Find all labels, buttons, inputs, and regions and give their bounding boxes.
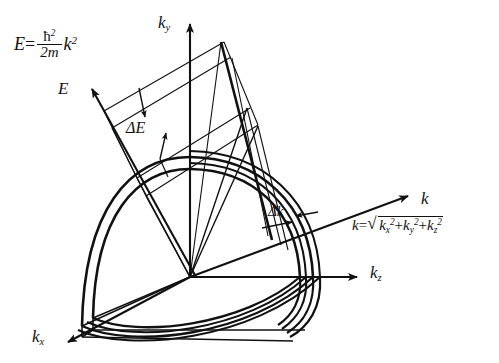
k-magnitude-equation: k= kx2+ky2+kz2 bbox=[352, 216, 443, 235]
annotation-delta-E: ΔE bbox=[126, 120, 145, 136]
axis-label-kz: kz bbox=[370, 264, 382, 283]
formula-equals: = bbox=[25, 34, 35, 54]
axis-label-k: k bbox=[421, 190, 429, 207]
formula-lhs: E bbox=[14, 34, 25, 54]
annotation-delta-k: Δk bbox=[268, 204, 283, 219]
wedge-edges-from-origin bbox=[137, 108, 258, 277]
energy-formula: E= ħ2 2m k2 bbox=[14, 30, 77, 61]
axis-label-ky: ky bbox=[158, 14, 170, 33]
formula-fraction: ħ2 2m bbox=[37, 29, 61, 60]
keq-radical: kx2+ky2+kz2 bbox=[367, 216, 443, 235]
formula-denominator: 2m bbox=[37, 44, 61, 60]
cone-generator-edge bbox=[221, 42, 272, 240]
k-space-sphere-diagram: E= ħ2 2m k2 k= kx2+ky2+kz2 ky kz kx E k … bbox=[0, 0, 499, 363]
axis-label-E: E bbox=[58, 80, 68, 97]
formula-k-exponent: 2 bbox=[72, 34, 78, 46]
keq-equals: = bbox=[359, 217, 367, 233]
formula-k: k bbox=[64, 34, 72, 54]
formula-numerator: ħ2 bbox=[37, 29, 61, 44]
keq-lhs: k bbox=[352, 217, 359, 233]
shell-right-closure bbox=[278, 277, 320, 337]
axis-label-kx: kx bbox=[32, 328, 44, 347]
